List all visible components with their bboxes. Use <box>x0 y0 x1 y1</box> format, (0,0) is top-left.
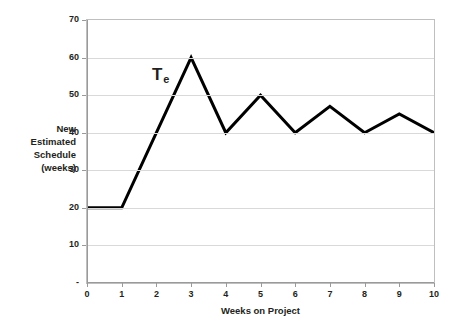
x-tick-label-9: 9 <box>388 290 410 299</box>
y-tick-label-60: 60 <box>53 53 79 62</box>
x-tick-label-2: 2 <box>145 290 167 299</box>
gridline-y-60 <box>87 58 434 59</box>
series-annotation-te: Te <box>152 66 169 85</box>
x-tick-mark-1 <box>122 283 123 287</box>
x-tick-label-1: 1 <box>111 290 133 299</box>
x-tick-label-0: 0 <box>76 290 98 299</box>
series-annotation-subscript: e <box>163 73 169 85</box>
y-tick-label-70: 70 <box>53 15 79 24</box>
x-axis-title: Weeks on Project <box>86 305 435 316</box>
x-tick-mark-8 <box>365 283 366 287</box>
y-axis-title-line-3: Schedule <box>4 148 76 161</box>
x-tick-mark-10 <box>434 283 435 287</box>
x-tick-mark-5 <box>261 283 262 287</box>
x-tick-mark-2 <box>156 283 157 287</box>
y-axis-title-line-2: Estimated <box>4 135 76 148</box>
x-tick-label-7: 7 <box>319 290 341 299</box>
gridline-y-40 <box>87 133 434 134</box>
series-plot-te <box>87 20 434 283</box>
x-tick-mark-0 <box>87 283 88 287</box>
gridline-y-30 <box>87 170 434 171</box>
y-tick-label-40: 40 <box>53 128 79 137</box>
x-tick-label-4: 4 <box>215 290 237 299</box>
y-tick-label-50: 50 <box>53 90 79 99</box>
gridline-y-20 <box>87 208 434 209</box>
y-tick-label-20: 20 <box>53 203 79 212</box>
series-annotation-base: T <box>152 65 163 84</box>
x-tick-label-3: 3 <box>180 290 202 299</box>
x-tick-mark-6 <box>295 283 296 287</box>
x-tick-label-6: 6 <box>284 290 306 299</box>
x-tick-label-8: 8 <box>354 290 376 299</box>
x-tick-mark-9 <box>399 283 400 287</box>
y-tick-label-30: 30 <box>53 165 79 174</box>
chart-container: New Estimated Schedule (weeks) -10203040… <box>0 0 456 327</box>
x-tick-mark-7 <box>330 283 331 287</box>
x-tick-mark-4 <box>226 283 227 287</box>
gridline-y-50 <box>87 95 434 96</box>
plot-area <box>86 19 435 284</box>
x-tick-label-5: 5 <box>250 290 272 299</box>
x-tick-label-10: 10 <box>423 290 445 299</box>
gridline-y-10 <box>87 245 434 246</box>
y-tick-label-10: 10 <box>53 240 79 249</box>
y-tick-label-0: - <box>53 278 79 287</box>
y-axis-line <box>87 20 88 283</box>
x-tick-mark-3 <box>191 283 192 287</box>
